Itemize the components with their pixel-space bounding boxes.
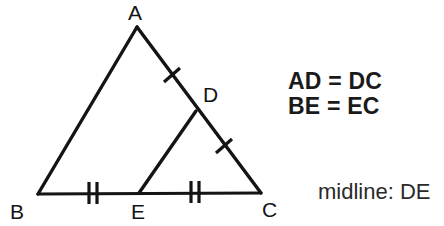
vertex-label-b: B	[10, 201, 24, 222]
vertex-label-d: D	[203, 84, 218, 105]
geometry-figure: A B C D E AD = DC BE = EC midline: DE	[0, 0, 444, 226]
segment-AB	[38, 27, 137, 194]
segment-BC	[38, 193, 261, 194]
vertex-label-e: E	[131, 201, 145, 222]
segment-DE	[139, 111, 196, 193]
note-ad-equals-dc: AD = DC	[288, 70, 382, 93]
vertex-label-a: A	[128, 2, 142, 23]
note-midline-de: midline: DE	[318, 181, 430, 203]
vertex-label-c: C	[262, 199, 277, 220]
note-be-equals-ec: BE = EC	[288, 95, 380, 118]
